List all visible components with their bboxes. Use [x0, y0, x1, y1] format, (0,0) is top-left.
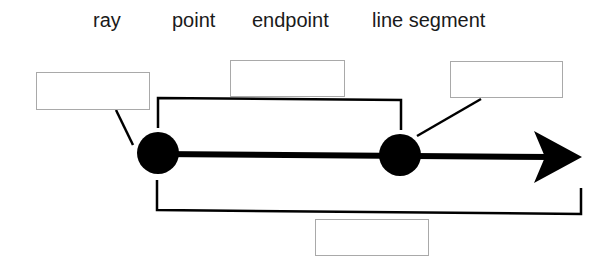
answer-box-left[interactable]	[36, 72, 150, 110]
ray-figure	[0, 0, 610, 272]
diagram-canvas: ray point endpoint line segment	[0, 0, 610, 272]
leader-line-left	[116, 110, 133, 145]
answer-box-top[interactable]	[230, 60, 345, 97]
point-b	[379, 134, 421, 176]
leader-line-right	[417, 99, 481, 136]
ray-line	[158, 154, 550, 157]
point-a	[137, 132, 179, 174]
answer-box-right[interactable]	[450, 61, 563, 98]
top-bracket	[158, 98, 401, 130]
bottom-bracket	[157, 180, 581, 214]
answer-box-bottom[interactable]	[315, 219, 429, 256]
